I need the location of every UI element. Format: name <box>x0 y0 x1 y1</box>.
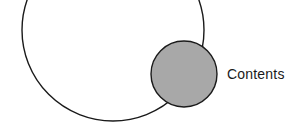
contents-label: Contents <box>227 66 285 82</box>
diagram-canvas <box>0 0 308 124</box>
inner-circle <box>151 41 217 107</box>
